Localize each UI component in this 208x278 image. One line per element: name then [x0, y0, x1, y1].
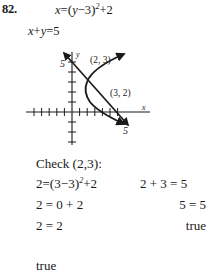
- equation-parabola-equals: =: [61, 3, 68, 17]
- check-row-1: 2=(3−3)2+2 2 + 3 = 5: [36, 176, 208, 197]
- x-axis-label: x: [141, 103, 146, 112]
- check-row-2-left: 2 = 0 + 2: [36, 197, 83, 213]
- check-row-1-left: 2=(3−3)2+2: [36, 176, 97, 192]
- check-row-3-right: true: [140, 218, 206, 234]
- y-axis-label: y: [75, 50, 80, 59]
- check-r1-plus: +: [83, 176, 90, 191]
- equation-parabola-constant: 2: [107, 3, 113, 17]
- check-r1-eq: =: [43, 176, 50, 191]
- check-title-colon: :: [98, 156, 102, 171]
- check-row-2-right: 5 = 5: [140, 197, 206, 213]
- final-true-label: true: [36, 258, 56, 274]
- check-row-2: 2 = 0 + 2 5 = 5: [36, 197, 208, 218]
- check-row-1-right: 2 + 3 = 5: [140, 176, 187, 192]
- equation-parabola-plus: +: [100, 3, 107, 17]
- worked-problem-page: 82. x=(y−3)2+2 x+y=5: [0, 0, 208, 278]
- point-label-3-2: (3, 2): [110, 88, 131, 99]
- check-r1-constant: 2: [91, 176, 98, 191]
- equation-line: x+y=5: [28, 24, 60, 39]
- point-label-2-3: (2, 3): [90, 55, 111, 66]
- check-title: Check (2,3):: [36, 156, 208, 172]
- problem-number: 82.: [2, 2, 17, 17]
- check-work-grid: 2=(3−3)2+2 2 + 3 = 5 2 = 0 + 2 5 = 5 2 =…: [36, 176, 208, 239]
- check-title-prefix: Check: [36, 156, 69, 171]
- graph-svg: y x 5 5 (2, 3) (3, 2): [24, 46, 152, 146]
- equation-parabola-inner-op: −: [78, 3, 85, 17]
- check-title-point: (2,3): [72, 156, 98, 171]
- equation-line-rhs: 5: [53, 24, 59, 38]
- equation-line-op: +: [34, 24, 41, 38]
- equation-parabola: x=(y−3)2+2: [55, 2, 113, 18]
- y-intercept-label: 5: [60, 58, 65, 69]
- check-row-3: 2 = 2 true: [36, 218, 208, 239]
- x-intercept-label: 5: [123, 125, 128, 136]
- coordinate-graph: y x 5 5 (2, 3) (3, 2): [24, 46, 152, 146]
- check-section: Check (2,3): 2=(3−3)2+2 2 + 3 = 5 2 = 0 …: [36, 156, 208, 239]
- check-row-3-left: 2 = 2: [36, 218, 63, 234]
